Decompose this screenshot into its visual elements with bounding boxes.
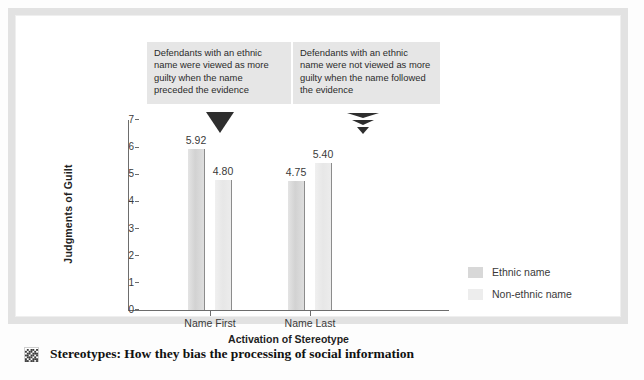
y-axis-tick-label: 6 xyxy=(104,141,134,153)
bar-value-label: 4.75 xyxy=(286,166,306,178)
bar-value-label: 4.80 xyxy=(213,165,233,177)
bar-ethnic: 4.75 xyxy=(288,181,305,310)
y-axis-tick-label: 1 xyxy=(104,277,134,289)
x-axis-line xyxy=(128,310,449,311)
legend-swatch xyxy=(468,267,483,278)
bar-non-ethnic: 5.40 xyxy=(315,163,332,310)
legend-item: Ethnic name xyxy=(468,261,572,283)
y-axis-tick-mark xyxy=(135,255,139,256)
y-axis-tick-label: 0 xyxy=(104,304,134,316)
legend-swatch xyxy=(468,289,483,300)
y-axis-tick-mark xyxy=(135,228,139,229)
y-axis-tick-mark xyxy=(135,201,139,202)
figure-caption: Stereotypes: How they bias the processin… xyxy=(24,346,414,362)
bar-value-label: 5.40 xyxy=(313,148,333,160)
x-axis-tick-mark xyxy=(210,310,211,316)
y-axis-tick-mark xyxy=(135,282,139,283)
y-axis-tick-label: 3 xyxy=(104,223,134,235)
bar-ethnic: 5.92 xyxy=(188,149,205,310)
x-axis-title: Activation of Stereotype xyxy=(128,333,449,345)
figure-frame: Defendants with an ethnic name were view… xyxy=(8,8,628,324)
y-axis-tick-label: 2 xyxy=(104,250,134,262)
y-axis-tick-mark xyxy=(135,309,139,310)
y-axis-title: Judgments of Guilt xyxy=(62,164,74,263)
halftone-square-icon xyxy=(24,347,39,362)
legend-label: Ethnic name xyxy=(492,266,550,278)
bar-value-label: 5.92 xyxy=(186,134,206,146)
y-axis-tick-mark xyxy=(135,147,139,148)
y-axis-tick-label: 7 xyxy=(104,114,134,126)
callout-box-name-last: Defendants with an ethnic name were not … xyxy=(293,42,440,104)
legend-item: Non-ethnic name xyxy=(468,283,572,305)
y-axis-tick-mark xyxy=(135,174,139,175)
plot-area: 765432105.924.804.755.40 xyxy=(128,120,448,310)
callout-box-name-first: Defendants with an ethnic name were view… xyxy=(147,42,291,104)
figure-caption-text: Stereotypes: How they bias the processin… xyxy=(50,346,414,362)
y-axis-tick-label: 5 xyxy=(104,168,134,180)
bar-non-ethnic: 4.80 xyxy=(215,180,232,310)
y-axis-tick-mark xyxy=(135,119,139,120)
chart-legend: Ethnic nameNon-ethnic name xyxy=(468,261,572,305)
x-axis-tick-mark xyxy=(310,310,311,316)
x-axis-tick-label: Name Last xyxy=(250,317,370,329)
figure-page: Defendants with an ethnic name were view… xyxy=(0,0,644,380)
legend-label: Non-ethnic name xyxy=(492,288,572,300)
y-axis-tick-label: 4 xyxy=(104,195,134,207)
